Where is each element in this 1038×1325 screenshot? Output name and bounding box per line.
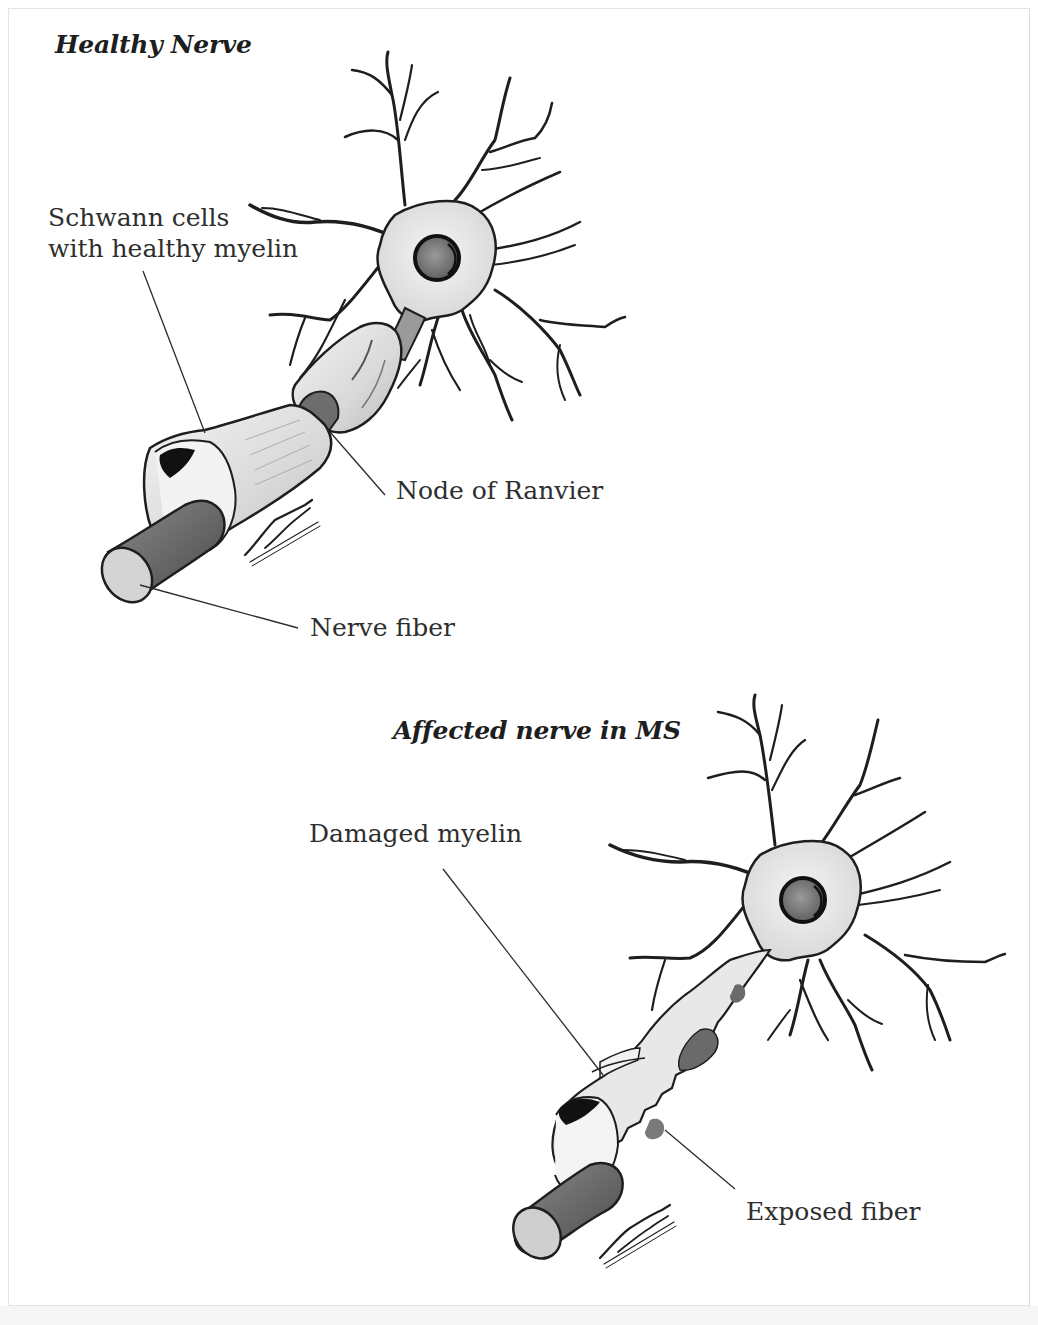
fiber-leader-line: [140, 585, 298, 628]
nerve-illustration: [0, 0, 1038, 1325]
damaged-myelin-label: Damaged myelin: [309, 818, 522, 849]
ms-signature: [600, 1205, 676, 1268]
schwann-leader-line: [143, 271, 205, 433]
healthy-nucleus: [415, 236, 459, 280]
exposed-fiber-label: Exposed fiber: [746, 1196, 920, 1227]
nerve-fiber-label: Nerve fiber: [310, 612, 455, 643]
healthy-neuron: [92, 52, 625, 612]
schwann-cells-label-line2: with healthy myelin: [48, 233, 298, 264]
node-leader-line: [330, 432, 385, 495]
schwann-cells-label-line1: Schwann cells: [48, 202, 298, 233]
schwann-cells-label: Schwann cells with healthy myelin: [48, 202, 298, 264]
ms-nucleus: [781, 878, 825, 922]
damaged-leader-line: [443, 869, 603, 1075]
ms-neuron: [503, 695, 1005, 1268]
healthy-nerve-title: Healthy Nerve: [55, 30, 252, 59]
exposed-leader-line: [665, 1130, 735, 1189]
node-of-ranvier-label: Node of Ranvier: [396, 475, 603, 506]
ms-nerve-title: Affected nerve in MS: [393, 716, 681, 745]
